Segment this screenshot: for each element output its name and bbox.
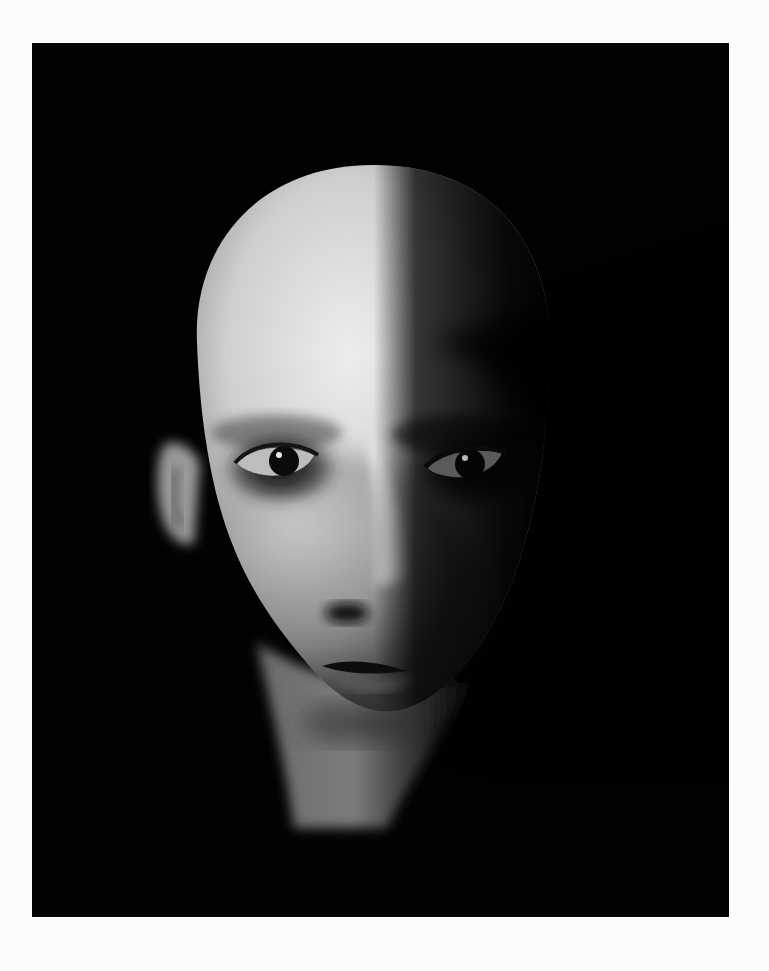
ear	[158, 443, 200, 545]
portrait-photo: black-and-white portrait of a bald perso…	[32, 43, 729, 917]
portrait-illustration	[32, 43, 729, 917]
